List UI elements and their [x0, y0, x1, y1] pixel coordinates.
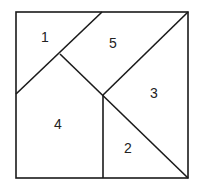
- piece-label-4: 4: [54, 117, 62, 131]
- piece-label-5: 5: [109, 36, 117, 50]
- inner-diagonal-line: [60, 54, 188, 178]
- piece-label-1: 1: [41, 30, 49, 44]
- piece-label-2: 2: [124, 141, 132, 155]
- diagram-lines: [0, 0, 197, 189]
- center-to-top-right-line: [103, 12, 188, 95]
- piece-label-3: 3: [150, 86, 158, 100]
- dissected-square-diagram: 1 5 3 4 2: [0, 0, 197, 189]
